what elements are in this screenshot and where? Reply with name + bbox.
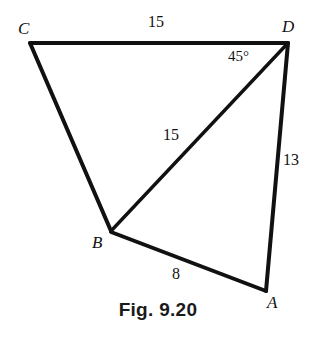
edge-length-bd: 15 (163, 127, 179, 143)
edge-length-da: 13 (283, 152, 299, 168)
geometry-figure: C D B A 15 15 13 8 45° Fig. 9.20 (0, 0, 316, 337)
vertex-label-c: C (18, 20, 29, 37)
vertex-label-b: B (92, 234, 102, 251)
figure-caption: Fig. 9.20 (0, 299, 316, 321)
edge-BA (111, 232, 266, 291)
edge-BD-diagonal (111, 43, 288, 231)
angle-label-bda: 45° (228, 49, 249, 64)
vertex-label-d: D (282, 18, 294, 35)
edge-CB (30, 43, 111, 231)
edge-length-cd: 15 (148, 14, 164, 30)
edge-length-ba: 8 (172, 266, 180, 282)
geometry-canvas (0, 0, 316, 337)
